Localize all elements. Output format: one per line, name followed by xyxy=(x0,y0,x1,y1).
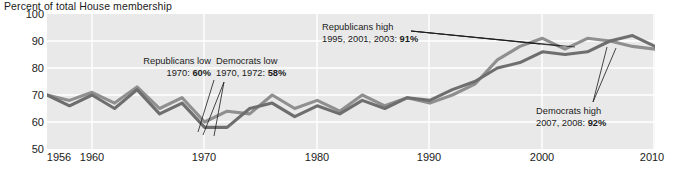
y-tick-100: 100 xyxy=(0,9,44,20)
y-axis-labels: 100 90 80 70 60 50 xyxy=(0,14,44,149)
x-tick-1970: 1970 xyxy=(192,152,216,163)
annotation-republicans-low: Republicans low 1970: 60% xyxy=(105,56,211,80)
y-tick-90: 90 xyxy=(0,36,44,47)
x-tick-1990: 1990 xyxy=(417,152,441,163)
x-tick-1956: 1956 xyxy=(47,152,71,163)
annotation-democrats-high-line2: 2007, 2008: 92% xyxy=(536,118,606,130)
x-tick-1960: 1960 xyxy=(80,152,104,163)
x-tick-2010: 2010 xyxy=(640,152,664,163)
annotation-democrats-high-line1: Democrats high xyxy=(536,106,601,116)
y-tick-80: 80 xyxy=(0,63,44,74)
annotation-democrats-low-value: 58% xyxy=(268,68,287,78)
annotation-democrats-high-value: 92% xyxy=(588,118,607,128)
annotation-democrats-low-line2: 1970, 1972: 58% xyxy=(216,68,286,80)
annotation-democrats-low-label: 1970, 1972: xyxy=(216,68,268,78)
annotation-republicans-high: Republicans high 1995, 2001, 2003: 91% xyxy=(322,22,418,46)
annotation-republicans-high-line2: 1995, 2001, 2003: 91% xyxy=(322,34,418,46)
x-tick-1980: 1980 xyxy=(305,152,329,163)
chart-root: Percent of total House membership 100 90… xyxy=(0,0,673,175)
annotation-republicans-low-line2: 1970: 60% xyxy=(105,68,211,80)
annotation-democrats-low-line1: Democrats low xyxy=(216,56,277,66)
annotation-republicans-low-line1: Republicans low xyxy=(143,56,211,66)
x-axis-labels: 1956 1960 1970 1980 1990 2000 2010 xyxy=(0,152,673,172)
annotation-republicans-low-value: 60% xyxy=(192,68,211,78)
annotation-democrats-high: Democrats high 2007, 2008: 92% xyxy=(536,106,606,130)
annotation-republicans-low-label: 1970: xyxy=(167,68,193,78)
annotation-republicans-high-label: 1995, 2001, 2003: xyxy=(322,34,400,44)
annotation-democrats-high-label: 2007, 2008: xyxy=(536,118,588,128)
y-tick-60: 60 xyxy=(0,117,44,128)
y-tick-70: 70 xyxy=(0,90,44,101)
annotation-democrats-low: Democrats low 1970, 1972: 58% xyxy=(216,56,286,80)
annotation-republicans-high-line1: Republicans high xyxy=(322,22,393,32)
annotation-republicans-high-value: 91% xyxy=(400,34,419,44)
x-tick-2000: 2000 xyxy=(530,152,554,163)
